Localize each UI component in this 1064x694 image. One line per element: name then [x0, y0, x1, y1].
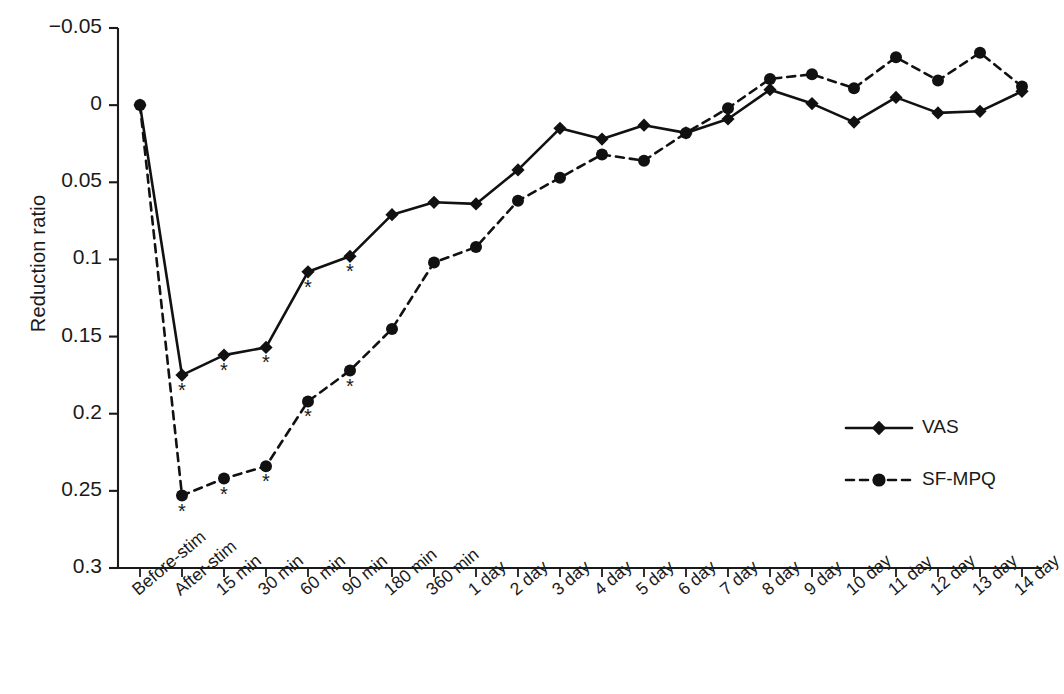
significance-asterisk: * [346, 260, 354, 282]
data-point-marker [889, 91, 902, 104]
y-tick-label: 0.1 [0, 245, 102, 269]
data-point-marker [427, 196, 440, 209]
legend-marker-sample [872, 473, 885, 486]
data-point-marker [931, 106, 944, 119]
data-point-marker [428, 257, 440, 269]
y-tick-label: −0.05 [0, 14, 102, 38]
chart-axes [109, 28, 1042, 577]
data-point-marker [512, 195, 524, 207]
data-point-marker [386, 323, 398, 335]
y-tick-label: 0.05 [0, 168, 102, 192]
data-point-marker [680, 127, 692, 139]
y-tick-label: 0.2 [0, 400, 102, 424]
data-point-marker [1016, 81, 1028, 93]
y-tick-label: 0.25 [0, 477, 102, 501]
data-point-marker [595, 133, 608, 146]
significance-asterisk: * [346, 375, 354, 397]
significance-asterisk: * [262, 351, 270, 373]
data-point-marker [470, 241, 482, 253]
legend-label-vas: VAS [922, 416, 959, 438]
legend-marks [846, 421, 912, 487]
data-point-marker [847, 116, 860, 129]
legend-label-sfmpq: SF-MPQ [922, 468, 996, 490]
significance-asterisk: * [178, 379, 186, 401]
data-point-marker [973, 105, 986, 118]
significance-asterisk: * [304, 405, 312, 427]
data-point-marker [764, 73, 776, 85]
data-point-marker [848, 82, 860, 94]
legend-marker-sample [872, 421, 886, 435]
series-line-vas [140, 90, 1022, 375]
data-point-marker [722, 102, 734, 114]
chart-figure: ********** Reduction ratio −0.0500.050.1… [0, 0, 1064, 694]
data-point-marker [638, 155, 650, 167]
data-point-marker [806, 68, 818, 80]
data-point-marker [890, 51, 902, 63]
significance-asterisk: * [178, 500, 186, 522]
chart-series: ********** [133, 47, 1028, 522]
data-point-marker [974, 47, 986, 59]
y-tick-label: 0.15 [0, 323, 102, 347]
data-point-marker [134, 99, 146, 111]
data-point-marker [554, 172, 566, 184]
y-tick-label: 0.3 [0, 554, 102, 578]
y-tick-label: 0 [0, 91, 102, 115]
data-point-marker [637, 119, 650, 132]
data-point-marker [805, 97, 818, 110]
data-point-marker [932, 75, 944, 87]
significance-asterisk: * [304, 276, 312, 298]
significance-asterisk: * [220, 359, 228, 381]
data-point-marker [596, 149, 608, 161]
significance-asterisk: * [220, 483, 228, 505]
significance-asterisk: * [262, 470, 270, 492]
